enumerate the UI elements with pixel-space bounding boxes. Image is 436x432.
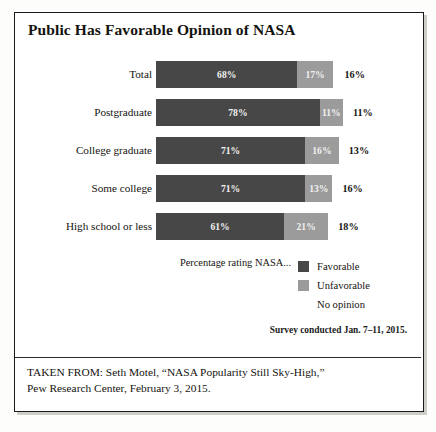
unfavorable-segment: 16% [305,137,339,164]
favorable-swatch [298,261,309,272]
citation-line-2: Pew Research Center, February 3, 2015. [27,381,409,397]
favorable-segment-value: 71% [221,145,240,156]
no-opinion-outside-label: 16% [342,175,362,202]
no-opinion-swatch [298,299,309,310]
unfavorable-segment: 21% [284,213,328,240]
unfavorable-swatch [298,280,309,291]
bar-track: 78%11%11% [156,99,366,126]
bar-row: Postgraduate78%11%11%11% [15,99,421,126]
favorable-segment: 71% [156,175,305,202]
legend-caption: Percentage rating NASA... [165,257,291,268]
legend-item[interactable]: No opinion [298,295,365,314]
unfavorable-segment: 13% [305,175,332,202]
bar-row: College graduate71%16%13%13% [15,137,421,164]
favorable-segment: 68% [156,61,297,88]
bar-track: 71%16%13% [156,137,366,164]
bar-row-label: Some college [15,175,152,202]
favorable-segment-value: 78% [228,107,247,118]
bar-row-label: Postgraduate [15,99,152,126]
bar-track: 71%13%16% [156,175,366,202]
figure-frame: Public Has Favorable Opinion of NASA Tot… [14,12,424,412]
no-opinion-outside-label: 16% [345,61,365,88]
bar-row-label: High school or less [15,213,152,240]
legend-item-label: No opinion [317,299,365,310]
unfavorable-segment: 17% [297,61,332,88]
no-opinion-outside-label: 13% [349,137,369,164]
unfavorable-segment: 11% [320,99,343,126]
bar-row-label: College graduate [15,137,152,164]
unfavorable-segment-value: 17% [305,69,324,80]
bar-track: 61%21%18% [156,213,366,240]
chart-legend: Percentage rating NASA... FavorableUnfav… [15,257,421,319]
favorable-segment: 61% [156,213,284,240]
unfavorable-segment-value: 16% [312,145,331,156]
favorable-segment-value: 68% [217,69,236,80]
favorable-segment-value: 71% [221,183,240,194]
bar-row: Some college71%13%16%16% [15,175,421,202]
legend-item[interactable]: Favorable [298,257,359,276]
unfavorable-segment-value: 13% [309,183,328,194]
legend-item-label: Favorable [317,261,359,272]
page-title: Public Has Favorable Opinion of NASA [28,21,296,39]
bar-track: 68%17%16% [156,61,366,88]
favorable-segment: 78% [156,99,320,126]
favorable-segment: 71% [156,137,305,164]
favorable-segment-value: 61% [210,221,229,232]
unfavorable-segment-value: 11% [322,107,341,118]
bar-row: High school or less61%21%18%18% [15,213,421,240]
legend-item[interactable]: Unfavorable [298,276,370,295]
source-citation: TAKEN FROM: Seth Motel, “NASA Popularity… [27,365,409,396]
stacked-bar-chart: Total68%17%16%16%Postgraduate78%11%11%11… [15,61,421,251]
citation-line-1: TAKEN FROM: Seth Motel, “NASA Popularity… [27,365,409,381]
no-opinion-outside-label: 18% [338,213,358,240]
figure-panel: Public Has Favorable Opinion of NASA Tot… [15,13,423,411]
no-opinion-outside-label: 11% [353,99,373,126]
unfavorable-segment-value: 21% [297,221,316,232]
figure-page: Public Has Favorable Opinion of NASA Tot… [0,0,436,432]
survey-note: Survey conducted Jan. 7–11, 2015. [15,325,407,335]
legend-item-label: Unfavorable [317,280,370,291]
section-divider [15,357,421,358]
bar-row-label: Total [15,61,152,88]
bar-row: Total68%17%16%16% [15,61,421,88]
